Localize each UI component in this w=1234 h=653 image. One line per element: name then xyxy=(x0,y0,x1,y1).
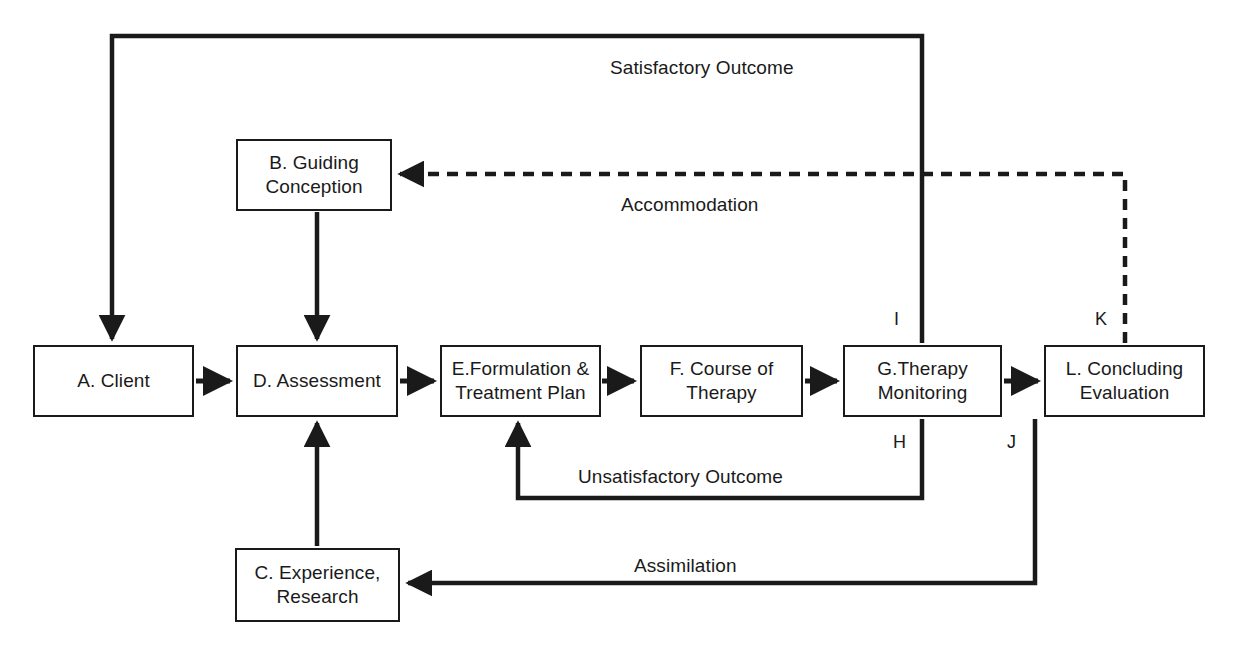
edge-label-assimilation: Assimilation xyxy=(629,555,742,577)
node-e-formulation-treatment-plan[interactable]: E.Formulation & Treatment Plan xyxy=(440,345,601,417)
point-label-i: I xyxy=(891,309,902,330)
node-b-label: B. Guiding Conception xyxy=(242,151,386,200)
node-l-label: L. Concluding Evaluation xyxy=(1050,357,1199,406)
point-label-k: K xyxy=(1092,309,1110,330)
edge-label-unsatisfactory-outcome: Unsatisfactory Outcome xyxy=(573,466,788,488)
flowchart-connectors xyxy=(0,0,1234,653)
node-g-therapy-monitoring[interactable]: G.Therapy Monitoring xyxy=(843,345,1002,417)
node-f-label: F. Course of Therapy xyxy=(646,357,797,406)
unsatisfactory-outcome-text: Unsatisfactory Outcome xyxy=(578,466,783,487)
edge-label-satisfactory-outcome: Satisfactory Outcome xyxy=(605,57,799,79)
point-label-h: H xyxy=(890,432,909,453)
node-b-guiding-conception[interactable]: B. Guiding Conception xyxy=(236,139,392,211)
node-c-label: C. Experience, Research xyxy=(241,561,394,610)
point-h-text: H xyxy=(893,432,906,452)
point-j-text: J xyxy=(1007,432,1016,452)
node-c-experience-research[interactable]: C. Experience, Research xyxy=(235,548,400,622)
point-label-j: J xyxy=(1004,432,1019,453)
satisfactory-outcome-text: Satisfactory Outcome xyxy=(610,57,794,78)
node-d-label: D. Assessment xyxy=(242,369,392,393)
node-l-concluding-evaluation[interactable]: L. Concluding Evaluation xyxy=(1044,345,1205,417)
node-d-assessment[interactable]: D. Assessment xyxy=(236,345,398,417)
accommodation-text: Accommodation xyxy=(621,194,759,215)
assimilation-text: Assimilation xyxy=(634,555,737,576)
node-a-label: A. Client xyxy=(39,369,188,393)
flowchart-canvas: A. Client B. Guiding Conception C. Exper… xyxy=(0,0,1234,653)
point-k-text: K xyxy=(1095,309,1107,329)
node-f-course-of-therapy[interactable]: F. Course of Therapy xyxy=(640,345,803,417)
node-e-label: E.Formulation & Treatment Plan xyxy=(446,357,595,406)
point-i-text: I xyxy=(894,309,899,329)
edge-satisfactory-outcome xyxy=(112,36,922,343)
edge-label-accommodation: Accommodation xyxy=(616,194,764,216)
node-a-client[interactable]: A. Client xyxy=(33,345,194,417)
node-g-label: G.Therapy Monitoring xyxy=(849,357,996,406)
